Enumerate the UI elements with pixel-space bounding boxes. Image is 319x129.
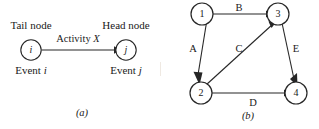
panel-a-activity-on-arrow: Tail node Head node Activity X i j Event… xyxy=(0,0,160,129)
tail-event-label-symbol: i xyxy=(44,64,47,76)
tail-event-label-text: Event xyxy=(15,64,41,76)
head-node-text: j xyxy=(125,45,128,55)
panel-b-graphics xyxy=(160,0,319,129)
panel-b-network-diagram: 1 2 3 4 B A C D E (b) xyxy=(160,0,319,129)
activity-label: Activity X xyxy=(56,34,99,45)
activity-label-text: Activity xyxy=(56,33,90,44)
activity-label-symbol: X xyxy=(93,33,99,44)
edge-d-label: D xyxy=(249,98,257,109)
tail-node-label: Tail node xyxy=(10,20,51,31)
head-event-label-symbol: j xyxy=(139,64,142,76)
panel-a-caption: (a) xyxy=(76,108,88,119)
figure-canvas: Tail node Head node Activity X i j Event… xyxy=(0,0,319,129)
head-node-label: Head node xyxy=(102,20,149,31)
panel-b-caption: (b) xyxy=(242,111,254,122)
tail-node-text: i xyxy=(30,45,33,55)
edge-b-label: B xyxy=(235,3,242,14)
edge-a-label: A xyxy=(189,44,197,55)
node-1-label: 1 xyxy=(200,9,205,19)
edge-c-line xyxy=(206,24,273,85)
node-4-label: 4 xyxy=(294,88,299,98)
node-2-label: 2 xyxy=(199,88,204,98)
node-3-label: 3 xyxy=(276,9,281,19)
edge-c-label: C xyxy=(235,44,242,55)
head-event-label: Event j xyxy=(110,65,141,76)
edge-a-line xyxy=(198,23,207,79)
edge-e-label: E xyxy=(293,44,299,55)
head-event-label-text: Event xyxy=(110,64,136,76)
tail-event-label: Event i xyxy=(15,65,46,76)
